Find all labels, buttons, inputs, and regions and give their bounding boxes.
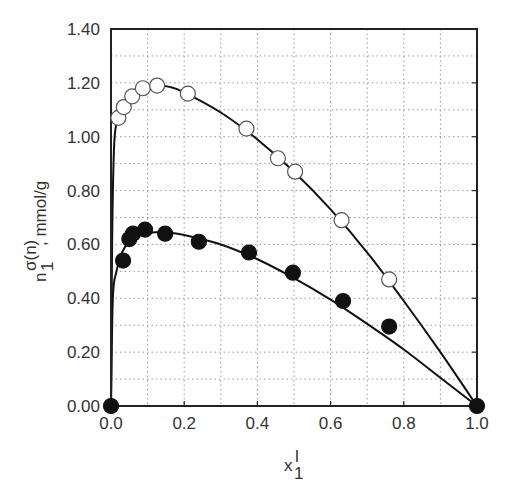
open-circle-marker [288, 164, 303, 179]
svg-text:, mmol/g: , mmol/g [31, 181, 50, 246]
x-tick-label: 0.0 [99, 414, 123, 433]
open-circle-marker [135, 81, 150, 96]
filled-circle-marker [241, 245, 256, 260]
y-tick-labels: 0.000.200.400.600.801.001.201.40 [67, 20, 100, 416]
svg-text:x: x [284, 456, 293, 475]
y-tick-label: 0.40 [67, 289, 100, 308]
filled-circle-marker [470, 399, 485, 414]
x-tick-labels: 0.00.20.40.60.81.0 [99, 414, 489, 433]
x-axis-label: x l 1 [284, 447, 303, 483]
open-circle-marker [382, 272, 397, 287]
y-tick-label: 0.20 [67, 343, 100, 362]
filled-circle-marker [191, 234, 206, 249]
open-circle-marker [150, 78, 165, 93]
x-axis-label-sub: 1 [294, 464, 303, 483]
svg-text:1: 1 [38, 262, 57, 271]
open-circle-marker [334, 213, 349, 228]
x-tick-label: 0.2 [172, 414, 196, 433]
filled-circle-marker [104, 399, 119, 414]
filled-circle-marker [285, 265, 300, 280]
chart: 0.00.20.40.60.81.0 0.000.200.400.600.801… [0, 0, 514, 497]
open-circle-marker [180, 86, 195, 101]
y-tick-label: 0.00 [67, 397, 100, 416]
x-tick-label: 0.8 [392, 414, 416, 433]
y-axis-label: n σ(n) 1 , mmol/g [21, 181, 57, 282]
y-tick-label: 0.60 [67, 235, 100, 254]
open-circle-marker [239, 121, 254, 136]
svg-text:n: n [31, 273, 50, 282]
y-tick-label: 0.80 [67, 182, 100, 201]
svg-text:1: 1 [294, 464, 303, 483]
filled-circle-marker [116, 253, 131, 268]
y-axis-label-base: n [31, 273, 50, 282]
open-circle-marker [270, 151, 285, 166]
x-axis-label-base: x [284, 456, 293, 475]
x-tick-label: 0.4 [246, 414, 270, 433]
y-tick-label: 1.20 [67, 74, 100, 93]
filled-circle-marker [158, 226, 173, 241]
x-tick-label: 1.0 [465, 414, 489, 433]
filled-circle-marker [138, 222, 153, 237]
filled-circle-marker [382, 319, 397, 334]
y-tick-label: 1.40 [67, 20, 100, 39]
y-axis-label-sub: 1 [38, 262, 57, 271]
y-tick-label: 1.00 [67, 128, 100, 147]
x-tick-label: 0.6 [319, 414, 343, 433]
fit-curve [111, 232, 477, 406]
filled-circle-marker [336, 293, 351, 308]
y-axis-label-unit: , mmol/g [31, 181, 50, 246]
